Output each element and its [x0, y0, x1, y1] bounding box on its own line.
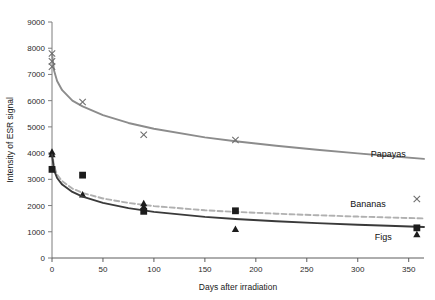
chart-canvas: 0100020003000400050006000700080009000 05… [0, 0, 435, 300]
y-tick-label: 9000 [27, 18, 45, 27]
y-tick-label: 6000 [27, 97, 45, 106]
y-tick-label: 0 [41, 254, 46, 263]
x-tick-label: 0 [50, 265, 55, 274]
data-point-square [232, 207, 239, 214]
y-tick-label: 8000 [27, 44, 45, 53]
x-tick-label: 150 [198, 265, 212, 274]
x-tick-label: 250 [300, 265, 314, 274]
data-point-square [79, 172, 86, 179]
series-label-bananas: Bananas [350, 199, 386, 209]
y-tick-label: 1000 [27, 228, 45, 237]
x-tick-label: 300 [351, 265, 365, 274]
x-tick-label: 100 [147, 265, 161, 274]
y-axis-title: Intensity of ESR signal [5, 97, 15, 183]
data-point-square [49, 166, 56, 173]
esr-decay-chart: 0100020003000400050006000700080009000 05… [0, 0, 435, 300]
data-point-square [140, 208, 147, 215]
y-tick-label: 5000 [27, 123, 45, 132]
data-point-square [413, 224, 420, 231]
x-tick-label: 350 [402, 265, 416, 274]
y-tick-label: 4000 [27, 149, 45, 158]
series-label-papayas: Papayas [371, 149, 407, 159]
y-tick-label: 7000 [27, 70, 45, 79]
series-label-figs: Figs [375, 232, 393, 242]
y-tick-label: 2000 [27, 202, 45, 211]
x-tick-label: 50 [99, 265, 108, 274]
x-axis-title: Days after irradiation [199, 282, 278, 292]
x-tick-label: 200 [249, 265, 263, 274]
chart-background [0, 0, 435, 300]
y-tick-label: 3000 [27, 175, 45, 184]
